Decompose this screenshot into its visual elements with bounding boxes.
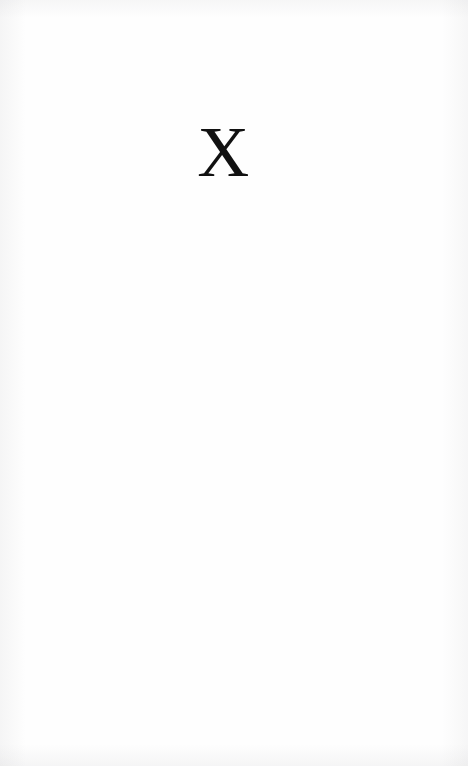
scanned-page: X [0,0,468,766]
scan-shadow-top-icon [0,0,468,18]
page-body-blank [0,200,468,766]
chapter-numeral-block: X [0,116,448,188]
chapter-numeral: X [197,116,250,188]
